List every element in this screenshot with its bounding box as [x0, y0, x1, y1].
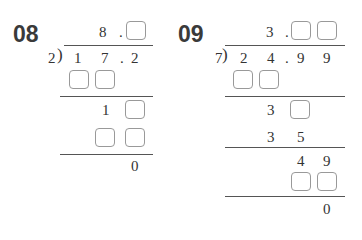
dividend-digit: 9	[297, 49, 305, 67]
final-remainder: 0	[131, 157, 139, 175]
dividend-digit: 7	[101, 49, 109, 67]
dividend-digit: 2	[240, 49, 248, 67]
division-bar	[225, 45, 345, 46]
step-digit: 3	[267, 101, 275, 119]
problem-number: 08	[13, 21, 39, 48]
subtraction-line	[60, 154, 153, 155]
divisor: 2	[48, 49, 56, 67]
division-bracket: )	[57, 45, 63, 65]
subtraction-line	[225, 196, 345, 197]
answer-box[interactable]	[125, 100, 145, 119]
problem-number: 09	[178, 21, 204, 48]
step-digit: 5	[297, 128, 305, 146]
dividend-digit: 2	[131, 49, 139, 67]
subtraction-line	[60, 96, 153, 97]
answer-box[interactable]	[126, 21, 146, 40]
subtraction-line	[225, 147, 345, 148]
step-digit: 3	[267, 128, 275, 146]
answer-box[interactable]	[291, 21, 311, 40]
answer-box[interactable]	[95, 70, 115, 89]
dividend-point: .	[285, 49, 289, 67]
answer-box[interactable]	[291, 172, 311, 191]
division-bar	[64, 45, 153, 46]
dividend-digit: 9	[323, 49, 331, 67]
answer-box[interactable]	[290, 100, 310, 119]
answer-box[interactable]	[95, 128, 115, 147]
subtraction-line	[225, 96, 345, 97]
answer-box[interactable]	[317, 21, 337, 40]
step-digit: 4	[297, 152, 305, 170]
answer-box[interactable]	[233, 70, 253, 89]
dividend-point: .	[120, 49, 124, 67]
answer-box[interactable]	[125, 128, 145, 147]
final-remainder: 0	[323, 200, 331, 218]
dividend-digit: 1	[74, 49, 82, 67]
answer-box[interactable]	[259, 70, 279, 89]
dividend-digit: 4	[267, 49, 275, 67]
quotient-point: .	[119, 23, 123, 41]
remainder-digit: 1	[102, 101, 110, 119]
answer-box[interactable]	[317, 172, 337, 191]
quotient-point: .	[285, 23, 289, 41]
answer-box[interactable]	[69, 70, 89, 89]
division-bracket: )	[222, 45, 228, 65]
quotient-digit: 3	[266, 23, 274, 41]
step-digit: 9	[323, 152, 331, 170]
quotient-digit: 8	[99, 23, 107, 41]
